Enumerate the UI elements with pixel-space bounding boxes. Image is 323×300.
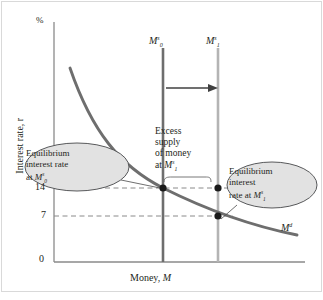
left-callout-line-2: interest rate [26, 159, 70, 170]
left-callout-line-3-prefix: at [26, 172, 35, 182]
left-callout-line-1: Equilibrium [26, 148, 70, 159]
left-callout-line-3: at Ms0 [26, 171, 70, 185]
right-callout-line-3-base: M [253, 190, 261, 200]
initial-equilibrium-dot [159, 184, 166, 191]
percent-unit-label: % [36, 15, 44, 25]
right-callout-line-3-prefix: rate at [229, 190, 253, 200]
right-callout-text: Equilibrium interest rate at Ms1 [229, 166, 273, 202]
right-callout-line-3: rate at Ms1 [229, 189, 273, 203]
ms1-subscript: 1 [217, 42, 220, 48]
ms1-superscript: s [214, 35, 216, 41]
new-equilibrium-dot [214, 212, 221, 219]
x-axis-label: Money, M [130, 272, 171, 284]
right-callout-line-2: interest [229, 177, 273, 188]
left-callout-text: Equilibrium interest rate at Ms0 [26, 148, 70, 184]
money-demand-label: Md [281, 222, 292, 234]
excess-line-4: at Ms1 [155, 159, 191, 173]
money-supply-0-label: Ms0 [149, 35, 163, 49]
excess-line-4-superscript: s [172, 159, 174, 165]
excess-line-1: Excess [155, 126, 191, 137]
right-callout-line-1: Equilibrium [229, 166, 273, 177]
excess-line-2: supply [155, 137, 191, 148]
ms0-superscript: s [157, 35, 159, 41]
excess-line-4-prefix: at [155, 160, 164, 170]
left-callout-line-3-superscript: s [42, 171, 44, 177]
x-axis-variable: M [163, 272, 171, 283]
y-axis-label: Interest rate, r [14, 91, 26, 201]
left-callout-line-3-subscript: 0 [44, 177, 47, 183]
origin-label: 0 [39, 253, 44, 265]
md-superscript: d [289, 222, 292, 228]
excess-line-4-base: M [164, 160, 172, 170]
excess-line-4-subscript: 1 [174, 166, 177, 172]
y-tick-label-7: 7 [41, 209, 46, 221]
ms0-subscript: 0 [160, 42, 163, 48]
excess-line-3: of money [155, 148, 191, 159]
right-callout-line-3-superscript: s [261, 189, 263, 195]
disequilibrium-dot [214, 184, 221, 191]
x-axis-label-text: Money, [130, 272, 163, 283]
excess-supply-note: Excess supply of money at Ms1 [155, 126, 191, 172]
right-callout-line-3-subscript: 1 [263, 195, 266, 201]
money-supply-1-label: Ms1 [206, 35, 220, 49]
